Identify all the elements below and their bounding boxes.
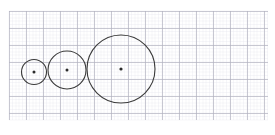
figure-background bbox=[0, 0, 275, 135]
figure-root bbox=[0, 0, 275, 135]
medium-circle-center bbox=[66, 69, 69, 72]
large-circle-center bbox=[119, 67, 122, 70]
small-circle-center bbox=[33, 71, 36, 74]
circles-figure-canvas bbox=[0, 0, 275, 135]
